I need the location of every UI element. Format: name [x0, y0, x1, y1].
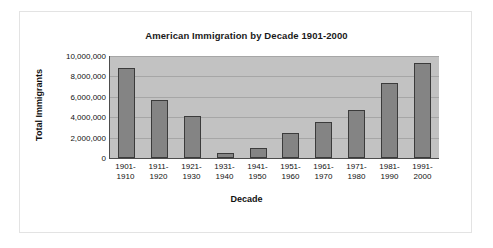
x-axis-tick-label-line: 1961- — [307, 162, 340, 172]
x-axis-tick-label-line: 1901- — [109, 162, 142, 172]
bar-slot — [307, 56, 340, 158]
x-axis-tick-label: 1981-1990 — [373, 162, 406, 182]
x-axis-tick-label-line: 1981- — [373, 162, 406, 172]
x-axis-tick-label: 1971-1980 — [340, 162, 373, 182]
x-axis-tick-label: 1931-1940 — [208, 162, 241, 182]
x-axis-tick-label-line: 1971- — [340, 162, 373, 172]
x-axis-tick-label: 1991-2000 — [406, 162, 439, 182]
y-axis-tick-label: 4,000,000 — [44, 113, 106, 122]
bar-slot — [406, 56, 439, 158]
bar-slot — [176, 56, 209, 158]
y-axis-tick-label: 6,000,000 — [44, 92, 106, 101]
bar[interactable] — [315, 122, 332, 158]
y-axis-tick-label: 2,000,000 — [44, 133, 106, 142]
bar-slot — [209, 56, 242, 158]
x-axis-tick-label-line: 1951- — [274, 162, 307, 172]
x-axis-tick-label-line: 1991- — [406, 162, 439, 172]
bar[interactable] — [151, 100, 168, 158]
x-axis-tick-label: 1941-1950 — [241, 162, 274, 182]
bar-slot — [110, 56, 143, 158]
bar-series — [110, 56, 439, 158]
bar-slot — [242, 56, 275, 158]
x-axis-tick-label-line: 1960 — [274, 172, 307, 182]
plot-area — [109, 56, 439, 159]
x-axis-tick-label-line: 1970 — [307, 172, 340, 182]
x-axis-tick-label-line: 1990 — [373, 172, 406, 182]
x-axis-tick-label: 1911-1920 — [142, 162, 175, 182]
bar-slot — [275, 56, 308, 158]
x-axis-tick-label-line: 1920 — [142, 172, 175, 182]
bar[interactable] — [381, 83, 398, 158]
x-axis-tick-label-line: 1931- — [208, 162, 241, 172]
x-axis-tick-labels: 1901-19101911-19201921-19301931-19401941… — [109, 162, 439, 182]
x-axis-tick-label-line: 1911- — [142, 162, 175, 172]
x-axis-tick-label-line: 1941- — [241, 162, 274, 172]
x-axis-tick-label: 1951-1960 — [274, 162, 307, 182]
y-axis-tick-labels: 10,000,0008,000,0006,000,0004,000,0002,0… — [44, 56, 106, 158]
chart-title: American Immigration by Decade 1901-2000 — [20, 30, 473, 41]
bar[interactable] — [282, 133, 299, 159]
x-axis-tick-label-line: 2000 — [406, 172, 439, 182]
bar-slot — [143, 56, 176, 158]
bar[interactable] — [217, 153, 234, 158]
bar[interactable] — [348, 110, 365, 158]
chart-container: American Immigration by Decade 1901-2000… — [19, 11, 472, 233]
x-axis-tick-label-line: 1930 — [175, 172, 208, 182]
x-axis-title: Decade — [20, 194, 473, 204]
y-axis-tick-label: 10,000,000 — [44, 52, 106, 61]
bar-slot — [373, 56, 406, 158]
bar[interactable] — [250, 148, 267, 158]
y-axis-tick-label: 0 — [44, 154, 106, 163]
x-axis-tick-label-line: 1910 — [109, 172, 142, 182]
bar-slot — [340, 56, 373, 158]
x-axis-tick-label-line: 1921- — [175, 162, 208, 172]
y-axis-tick-label: 8,000,000 — [44, 72, 106, 81]
x-axis-tick-label-line: 1940 — [208, 172, 241, 182]
bar[interactable] — [184, 116, 201, 158]
x-axis-tick-label: 1921-1930 — [175, 162, 208, 182]
x-axis-tick-label-line: 1950 — [241, 172, 274, 182]
x-axis-tick-label: 1901-1910 — [109, 162, 142, 182]
bar[interactable] — [118, 68, 135, 158]
x-axis-tick-label: 1961-1970 — [307, 162, 340, 182]
y-axis-title: Total Immigrants — [34, 60, 44, 150]
x-axis-tick-label-line: 1980 — [340, 172, 373, 182]
bar[interactable] — [414, 63, 431, 158]
